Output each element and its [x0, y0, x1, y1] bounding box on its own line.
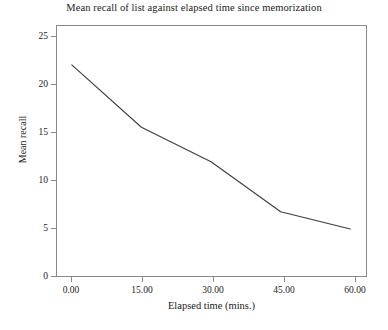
y-tick-mark-0: [51, 276, 56, 277]
y-tick-label-25: 25: [14, 31, 48, 41]
y-tick-mark-5: [51, 228, 56, 229]
x-axis-title: Elapsed time (mins.): [56, 300, 367, 311]
y-tick-label-5: 5: [14, 223, 48, 233]
y-axis-title: Mean recall: [17, 100, 28, 180]
x-tick-label-60: 60.00: [325, 285, 385, 295]
y-tick-label-10: 10: [14, 175, 48, 185]
x-tick-label-15: 15.00: [112, 285, 172, 295]
x-tick-mark-0: [71, 277, 72, 282]
chart-figure: Mean recall of list against elapsed time…: [0, 0, 388, 330]
y-tick-label-20: 20: [14, 79, 48, 89]
y-tick-mark-20: [51, 84, 56, 85]
x-tick-mark-60: [355, 277, 356, 282]
x-tick-label-45: 45.00: [254, 285, 314, 295]
x-tick-label-0: 0.00: [41, 285, 101, 295]
x-tick-mark-15: [142, 277, 143, 282]
y-tick-mark-15: [51, 132, 56, 133]
x-tick-label-30: 30.00: [183, 285, 243, 295]
y-tick-mark-25: [51, 36, 56, 37]
y-tick-label-0: 0: [14, 271, 48, 281]
plot-area: [56, 25, 367, 277]
x-tick-mark-30: [213, 277, 214, 282]
x-tick-mark-45: [284, 277, 285, 282]
chart-title: Mean recall of list against elapsed time…: [0, 2, 388, 13]
y-tick-mark-10: [51, 180, 56, 181]
y-tick-label-15: 15: [14, 127, 48, 137]
